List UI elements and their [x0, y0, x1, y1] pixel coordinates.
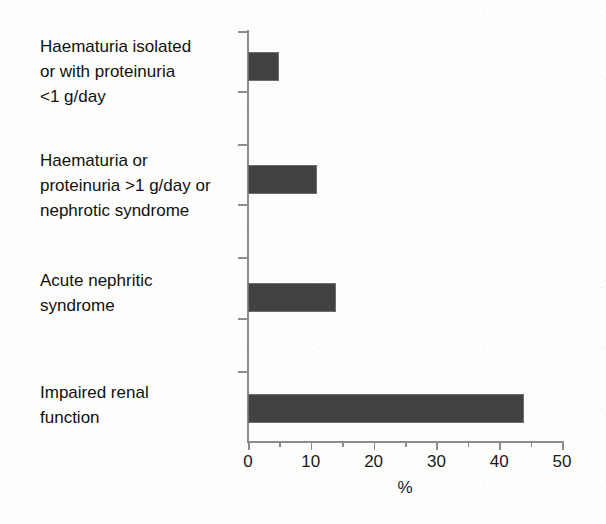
x-axis-tick — [499, 441, 501, 450]
x-axis-tick — [468, 441, 470, 447]
bar-2 — [248, 283, 336, 312]
x-axis-tick-label: 30 — [427, 452, 446, 472]
y-axis-tick — [238, 257, 247, 259]
x-axis-tick-label: 10 — [301, 452, 320, 472]
x-axis-tick-label: 50 — [553, 452, 572, 472]
x-axis-tick — [248, 441, 250, 450]
category-label-haematuria-or-proteinuria: Haematuria or proteinuria >1 g/day or ne… — [40, 148, 236, 223]
category-label-impaired-renal-function: Impaired renal function — [40, 380, 236, 430]
y-axis-tick — [238, 371, 247, 373]
y-axis-tick — [238, 318, 247, 320]
x-axis-tick — [374, 441, 376, 450]
bar-chart-figure: Haematuria isolated or with proteinuria … — [0, 0, 606, 524]
category-label-haematuria-isolated: Haematuria isolated or with proteinuria … — [40, 34, 236, 109]
x-axis-tick-label: 40 — [490, 452, 509, 472]
y-axis-tick — [238, 144, 247, 146]
y-axis-tick — [238, 91, 247, 93]
x-axis-tick — [562, 441, 564, 450]
x-axis-tick — [405, 441, 407, 447]
x-axis-title: % — [397, 478, 412, 498]
bar-3 — [248, 394, 524, 423]
y-axis-tick — [238, 204, 247, 206]
x-axis-tick — [531, 441, 533, 447]
category-label-acute-nephritic-syndrome: Acute nephritic syndrome — [40, 268, 236, 318]
x-axis-tick — [436, 441, 438, 450]
x-axis-tick-label: 20 — [364, 452, 383, 472]
bar-0 — [248, 52, 279, 81]
y-axis-tick — [238, 31, 247, 33]
x-axis-tick — [342, 441, 344, 447]
x-axis-tick-label: 0 — [243, 452, 252, 472]
x-axis-tick — [311, 441, 313, 450]
bar-1 — [248, 165, 317, 194]
y-axis-line — [247, 30, 249, 442]
x-axis-tick — [279, 441, 281, 447]
